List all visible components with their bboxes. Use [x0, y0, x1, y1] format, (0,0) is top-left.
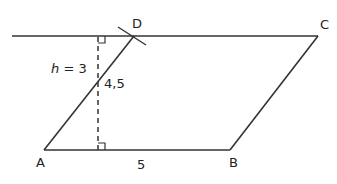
right-angle-marker-top: [98, 36, 105, 43]
label-c: C: [320, 17, 329, 32]
side-ad-length-label: 4,5: [104, 76, 125, 91]
side-ad: [44, 36, 134, 150]
parallelogram-diagram: D C A B h = 3 4,5 5: [0, 0, 337, 184]
label-b: B: [229, 155, 238, 170]
right-angle-marker-bottom: [98, 143, 105, 150]
height-variable: h: [51, 61, 59, 76]
side-bc: [230, 36, 318, 150]
height-value: = 3: [59, 61, 86, 76]
side-ab-length-label: 5: [137, 157, 145, 172]
label-d: D: [132, 16, 142, 31]
label-a: A: [36, 155, 45, 170]
height-label: h = 3: [51, 61, 87, 76]
